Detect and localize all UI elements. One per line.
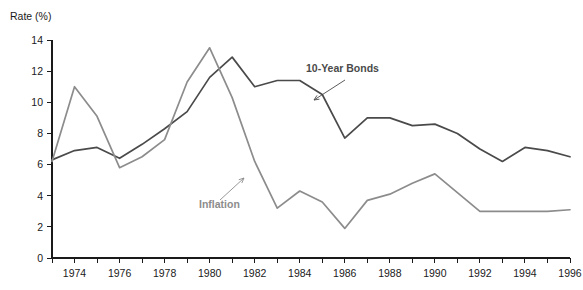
annotation-leader-line-10-year-bonds	[314, 80, 345, 100]
series-label-10-year-bonds: 10-Year Bonds	[306, 62, 379, 74]
x-tick-label: 1978	[153, 267, 177, 279]
x-tick-label: 1980	[198, 267, 222, 279]
line-chart-svg: Rate (%) 02468101214 1974197619781980198…	[0, 0, 583, 290]
y-tick-label: 10	[31, 96, 43, 108]
x-tick-label: 1986	[333, 267, 357, 279]
y-tick-label: 0	[37, 252, 43, 264]
x-axis-tick-marks	[52, 258, 570, 263]
y-tick-label: 14	[31, 34, 43, 46]
x-axis-tick-labels: 1974197619781980198219841986198819901992…	[63, 267, 582, 279]
chart-container: Rate (%) 02468101214 1974197619781980198…	[0, 0, 583, 290]
y-tick-label: 2	[37, 221, 43, 233]
y-axis-tick-marks	[47, 40, 52, 258]
y-tick-label: 6	[37, 158, 43, 170]
x-tick-label: 1984	[288, 267, 312, 279]
y-axis-tick-labels: 02468101214	[31, 34, 43, 264]
y-tick-label: 4	[37, 190, 43, 202]
x-tick-label: 1996	[558, 267, 582, 279]
x-tick-label: 1988	[378, 267, 402, 279]
x-tick-label: 1990	[423, 267, 447, 279]
x-tick-label: 1976	[108, 267, 132, 279]
x-tick-label: 1994	[513, 267, 537, 279]
y-tick-label: 8	[37, 127, 43, 139]
x-tick-label: 1982	[243, 267, 267, 279]
series-label-inflation: Inflation	[199, 198, 240, 210]
x-tick-label: 1974	[63, 267, 87, 279]
y-axis-title: Rate (%)	[10, 10, 51, 22]
x-tick-label: 1992	[468, 267, 492, 279]
annotation-leader-line-inflation	[220, 178, 244, 200]
data-series-group	[52, 48, 570, 229]
data-line-inflation	[52, 48, 570, 229]
y-tick-label: 12	[31, 65, 43, 77]
